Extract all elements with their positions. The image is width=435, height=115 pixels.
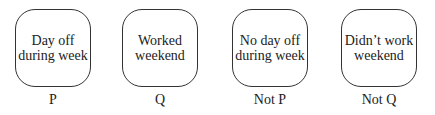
card-line: Day off [18,33,88,48]
card-label-not-q: Not Q [341,92,417,108]
card-q: Worked weekend [122,9,198,87]
card-line: weekend [135,48,185,63]
card-label-p: P [15,92,91,108]
card-not-q: Didn’t work weekend [341,9,417,87]
card-text: Worked weekend [135,33,185,63]
card-p: Day off during week [15,9,91,87]
card-line: Worked [135,33,185,48]
card-line: during week [235,48,305,63]
card-text: Day off during week [18,33,88,63]
card-label-q: Q [122,92,198,108]
card-text: No day off during week [235,33,305,63]
card-label-not-p: Not P [232,92,308,108]
card-line: during week [18,48,88,63]
card-line: weekend [345,48,414,63]
card-line: No day off [235,33,305,48]
card-not-p: No day off during week [232,9,308,87]
card-text: Didn’t work weekend [345,33,414,63]
card-line: Didn’t work [345,33,414,48]
